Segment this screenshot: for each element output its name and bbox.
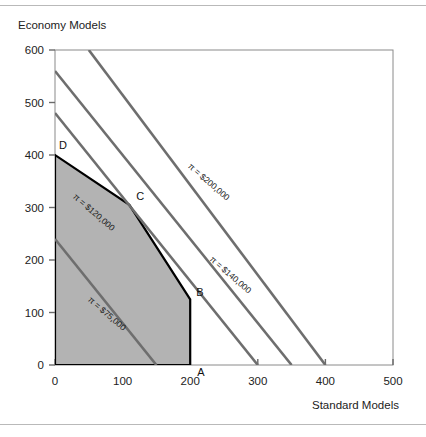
- figure-container: Economy Models Standard Models 010020030…: [0, 0, 426, 437]
- x-tick-label-100: 100: [113, 375, 132, 387]
- vertex-label-b: B: [196, 286, 203, 298]
- plot-area: 0100200300400500600 0100200300400500 π =…: [0, 0, 426, 437]
- x-tick-label-0: 0: [52, 375, 58, 387]
- y-axis-tick-labels: 0100200300400500600: [25, 44, 44, 371]
- y-tick-label-500: 500: [25, 97, 44, 109]
- y-tick-label-600: 600: [25, 44, 44, 56]
- vertex-label-d: D: [59, 139, 67, 151]
- y-tick-label-0: 0: [38, 359, 44, 371]
- y-axis-ticks: [49, 50, 55, 365]
- x-tick-label-300: 300: [248, 375, 267, 387]
- y-tick-label-100: 100: [25, 307, 44, 319]
- vertex-label-a: A: [197, 366, 205, 378]
- y-tick-label-200: 200: [25, 254, 44, 266]
- vertex-label-c: C: [136, 190, 144, 202]
- y-tick-label-300: 300: [25, 202, 44, 214]
- x-tick-label-500: 500: [383, 375, 402, 387]
- x-tick-label-400: 400: [316, 375, 335, 387]
- y-tick-label-400: 400: [25, 149, 44, 161]
- x-axis-tick-labels: 0100200300400500: [52, 375, 403, 387]
